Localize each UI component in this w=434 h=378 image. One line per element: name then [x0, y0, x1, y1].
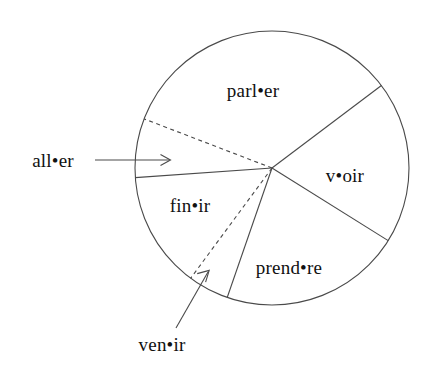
- slice-label-prendre: prend•re: [256, 257, 322, 279]
- slice-label-finir: fin•ir: [170, 195, 211, 217]
- figure-canvas: parl•er v•oir prend•re fin•ir all•er ven…: [0, 0, 434, 378]
- slice-boundary-aller-parler: [144, 119, 272, 168]
- pie-diagram: [0, 0, 434, 378]
- slice-label-voir: v•oir: [326, 165, 364, 187]
- slice-boundary-parler-voir: [272, 86, 381, 169]
- callout-label-venir: ven•ir: [139, 334, 186, 356]
- callout-arrow-aller: [95, 155, 171, 166]
- slice-label-parler: parl•er: [227, 80, 279, 102]
- slice-boundary-finir-aller: [135, 168, 272, 178]
- callout-label-aller: all•er: [32, 150, 74, 172]
